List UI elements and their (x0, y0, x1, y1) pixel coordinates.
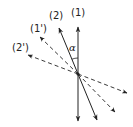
label-ray-1: (1) (71, 7, 85, 18)
label-ray-2: (2) (49, 10, 63, 21)
ray-diagram: (1) (2) (1') (2') α (0, 0, 133, 127)
label-ray-1-prime: (1') (30, 23, 47, 34)
ray-2-prime-down-arrow (78, 74, 127, 93)
ray-1-prime-down-arrow (78, 74, 115, 112)
ray-2-prime-up-arrow (28, 55, 78, 74)
label-ray-2-prime: (2') (12, 42, 29, 53)
ray-2-down-arrow (78, 74, 97, 120)
label-angle-alpha: α (69, 42, 76, 53)
origin-point (76, 72, 79, 75)
angle-arc (72, 58, 78, 59)
